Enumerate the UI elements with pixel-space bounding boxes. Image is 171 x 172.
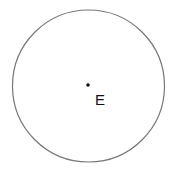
point-label-e: E <box>95 91 105 108</box>
diagram-canvas: E <box>0 0 171 172</box>
center-point <box>86 83 90 87</box>
